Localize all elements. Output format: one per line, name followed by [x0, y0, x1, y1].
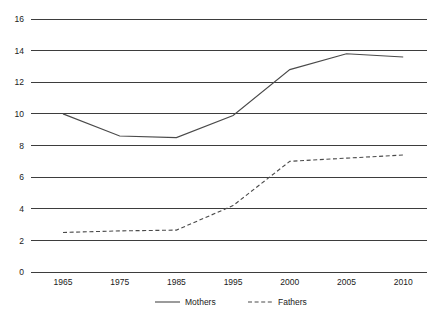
x-tick-label: 1975 — [110, 277, 129, 287]
series-line-fathers — [63, 155, 403, 232]
y-axis-tick-labels: 1614121086420 — [15, 14, 25, 277]
x-tick-label: 1985 — [167, 277, 186, 287]
x-tick-label: 1965 — [54, 277, 73, 287]
y-tick-label: 2 — [19, 236, 24, 246]
x-tick-label: 1995 — [224, 277, 243, 287]
x-axis-tick-labels: 1965197519851995200020052010 — [54, 277, 413, 287]
gridlines — [31, 19, 427, 272]
y-tick-label: 0 — [19, 267, 24, 277]
data-series-group — [63, 54, 403, 233]
line-chart: 1614121086420 19651975198519952000200520… — [0, 0, 439, 320]
y-tick-label: 14 — [15, 46, 25, 56]
x-tick-label: 2010 — [394, 277, 413, 287]
y-tick-label: 6 — [19, 172, 24, 182]
series-line-mothers — [63, 54, 403, 138]
legend-label-fathers: Fathers — [278, 297, 307, 307]
legend-label-mothers: Mothers — [185, 297, 216, 307]
y-tick-label: 4 — [19, 204, 24, 214]
chart-legend: MothersFathers — [155, 297, 307, 307]
x-tick-label: 2005 — [337, 277, 356, 287]
y-tick-label: 12 — [15, 77, 25, 87]
y-tick-label: 8 — [19, 141, 24, 151]
x-tick-label: 2000 — [280, 277, 299, 287]
y-tick-label: 16 — [15, 14, 25, 24]
chart-canvas: 1614121086420 19651975198519952000200520… — [0, 0, 439, 320]
y-tick-label: 10 — [15, 109, 25, 119]
